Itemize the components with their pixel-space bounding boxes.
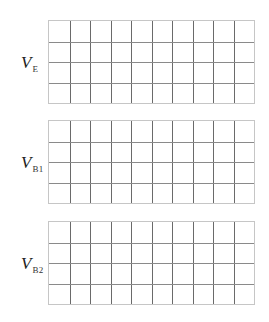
grid-horizontal-line bbox=[49, 162, 254, 163]
grid-vb1 bbox=[48, 120, 255, 204]
panel-label-ve: VE bbox=[21, 54, 37, 71]
label-subscript: E bbox=[32, 64, 38, 74]
grid-horizontal-line bbox=[49, 243, 254, 244]
grid-horizontal-line bbox=[49, 263, 254, 264]
label-main: V bbox=[21, 53, 31, 72]
grid-horizontal-line bbox=[49, 83, 254, 84]
label-main: V bbox=[21, 254, 31, 273]
panel-vb2: VB2 bbox=[0, 221, 269, 307]
grid-horizontal-line bbox=[49, 142, 254, 143]
grid-horizontal-line bbox=[49, 42, 254, 43]
grid-horizontal-line bbox=[49, 284, 254, 285]
label-subscript: B1 bbox=[32, 164, 43, 174]
label-main: V bbox=[21, 153, 31, 172]
panel-vb1: VB1 bbox=[0, 120, 269, 206]
grid-vb2 bbox=[48, 221, 255, 305]
label-subscript: B2 bbox=[32, 265, 43, 275]
grid-horizontal-line bbox=[49, 62, 254, 63]
panel-ve: VE bbox=[0, 20, 269, 106]
panel-label-vb1: VB1 bbox=[21, 154, 43, 171]
grid-horizontal-line bbox=[49, 183, 254, 184]
panel-label-vb2: VB2 bbox=[21, 255, 43, 272]
grid-ve bbox=[48, 20, 255, 104]
